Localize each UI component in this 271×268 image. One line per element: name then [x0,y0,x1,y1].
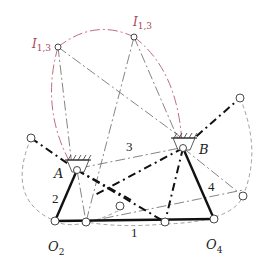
red-arc-top [58,29,134,47]
label-link-2: 2 [52,192,59,205]
label-link-1: 1 [131,226,138,239]
linkage-diagram: I1,3 I1,3 A B O2 O4 1 2 3 4 [0,0,271,268]
label-i13-left: I1,3 [32,38,51,53]
construction-lines [58,37,243,222]
label-A: A [54,167,63,180]
label-link-3: 3 [126,140,133,153]
label-i13-right: I1,3 [133,16,152,31]
label-O4: O4 [206,238,222,255]
joints [27,34,247,226]
label-O2: O2 [48,240,64,257]
label-B: B [199,143,209,156]
red-arc-right [134,37,182,144]
link-1 [55,219,214,221]
label-link-4: 4 [208,180,215,193]
red-arc-left [52,47,72,166]
